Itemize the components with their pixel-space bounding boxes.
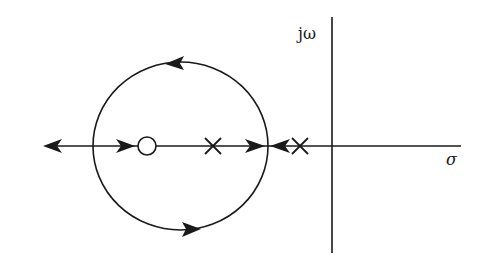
real-axis-label: σ (446, 150, 458, 169)
imaginary-axis-label: jω (296, 24, 316, 43)
zero-marker (138, 137, 156, 155)
root-locus-diagram: jω σ (0, 0, 491, 273)
arrow-upper-arc (165, 56, 184, 70)
